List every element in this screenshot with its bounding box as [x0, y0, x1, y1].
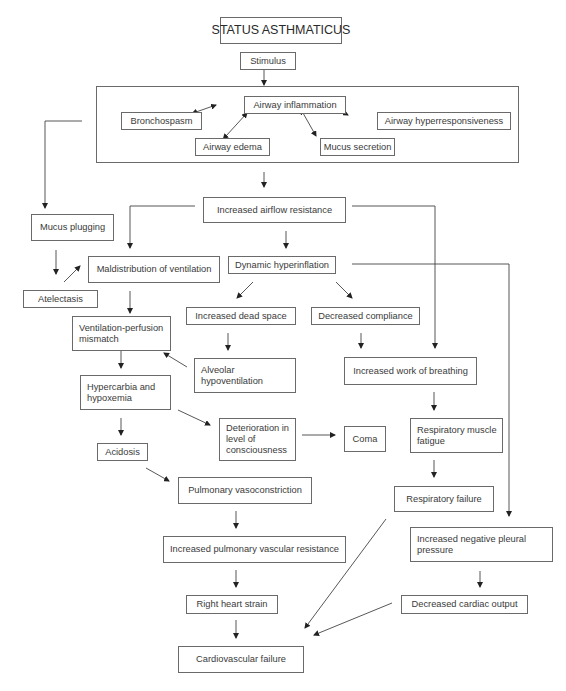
node-pulmonary-vasoconstriction: Pulmonary vasoconstriction	[178, 477, 312, 504]
node-increased-dead-space: Increased dead space	[186, 307, 296, 325]
node-mucus-plugging: Mucus plugging	[31, 214, 114, 241]
node-decreased-compliance: Decreased compliance	[311, 307, 420, 325]
node-dynamic-hyperinflation: Dynamic hyperinflation	[228, 256, 336, 274]
node-acidosis: Acidosis	[97, 443, 148, 461]
node-respiratory-muscle-fatigue: Respiratory muscle fatigue	[410, 418, 503, 453]
node-airway-edema: Airway edema	[195, 138, 270, 156]
title-box: STATUS ASTHMATICUS	[220, 17, 342, 44]
node-respiratory-failure: Respiratory failure	[394, 486, 494, 512]
node-deterioration-consciousness: Deterioration in level of consciousness	[219, 418, 296, 461]
node-increased-work-of-breathing: Increased work of breathing	[344, 357, 477, 385]
node-decreased-cardiac-output: Decreased cardiac output	[401, 595, 528, 614]
node-airway-inflammation: Airway inflammation	[244, 96, 346, 114]
node-alveolar-hypoventilation: Alveolar hypoventilation	[194, 358, 296, 393]
node-vq-mismatch: Ventilation-perfusion mismatch	[72, 316, 171, 351]
node-increased-negative-pleural-pressure: Increased negative pleural pressure	[410, 527, 553, 562]
node-right-heart-strain: Right heart strain	[186, 595, 278, 614]
node-cardiovascular-failure: Cardiovascular failure	[178, 646, 304, 673]
node-coma: Coma	[344, 426, 386, 452]
node-airway-hyperresponsiveness: Airway hyperresponsiveness	[377, 112, 511, 130]
node-hypercarbia-hypoxemia: Hypercarbia and hypoxemia	[80, 375, 171, 410]
node-atelectasis: Atelectasis	[23, 290, 98, 308]
node-increased-airflow-resistance: Increased airflow resistance	[203, 197, 346, 223]
node-stimulus: Stimulus	[240, 52, 296, 70]
node-mucus-secretion: Mucus secretion	[320, 138, 395, 156]
node-bronchospasm: Bronchospasm	[121, 112, 202, 130]
node-increased-pulmonary-vascular-resistance: Increased pulmonary vascular resistance	[163, 536, 346, 563]
node-maldistribution-of-ventilation: Maldistribution of ventilation	[88, 256, 220, 283]
